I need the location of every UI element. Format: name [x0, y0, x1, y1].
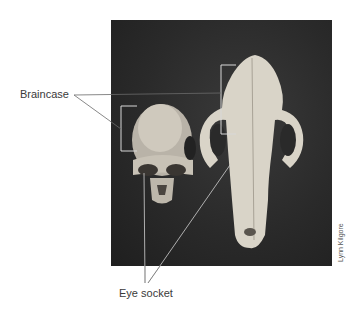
- braincase-label: Braincase: [20, 88, 69, 100]
- skull-comparison-figure: Braincase Eye socket Lynn Kilgore: [0, 0, 354, 312]
- carnivore-skull: [200, 55, 304, 248]
- photo-credit: Lynn Kilgore: [337, 223, 344, 262]
- primate-skull: [132, 104, 196, 204]
- eye-socket-label: Eye socket: [119, 287, 173, 299]
- skull-illustration: [0, 0, 354, 312]
